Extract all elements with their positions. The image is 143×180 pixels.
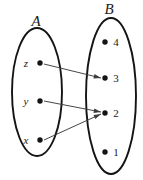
mapping-arrows [44, 64, 101, 140]
element-1: 1 [102, 146, 118, 158]
set-group-b: B [86, 1, 136, 174]
set-outline-a [12, 28, 62, 156]
diagram-canvas: A B [0, 0, 143, 180]
arrow-line-z-3 [44, 64, 101, 78]
element-label-3: 3 [113, 72, 119, 84]
mapping-arrow-x-to-2 [44, 114, 101, 140]
set-group-a: A [12, 13, 62, 156]
arrowhead-x-2 [93, 114, 101, 119]
set-a-elements: z y x [23, 57, 43, 146]
arrow-line-y-2 [44, 101, 101, 112]
element-dot-y [37, 98, 42, 103]
element-label-y: y [23, 95, 29, 107]
element-dot-x [37, 137, 42, 142]
element-3: 3 [102, 72, 119, 84]
element-x: x [23, 134, 43, 146]
arrowhead-z-3 [93, 74, 101, 78]
element-y: y [23, 95, 43, 107]
element-2: 2 [102, 107, 118, 119]
element-dot-3 [102, 75, 107, 80]
set-label-b: B [104, 1, 113, 17]
set-label-a: A [30, 13, 41, 29]
element-label-z: z [23, 57, 29, 69]
set-b-elements: 4 3 2 1 [102, 36, 119, 158]
element-label-2: 2 [113, 107, 119, 119]
element-label-1: 1 [113, 146, 119, 158]
element-label-4: 4 [113, 36, 119, 48]
element-z: z [23, 57, 43, 69]
element-4: 4 [102, 36, 119, 48]
set-mapping-diagram: A B [0, 0, 143, 180]
arrow-line-x-2 [44, 114, 101, 140]
mapping-arrow-z-to-3 [44, 64, 101, 79]
element-dot-2 [102, 110, 107, 115]
set-outline-b [86, 18, 136, 174]
element-label-x: x [23, 134, 29, 146]
element-dot-z [37, 60, 42, 65]
mapping-arrow-y-to-2 [44, 101, 101, 113]
element-dot-4 [102, 39, 107, 44]
element-dot-1 [102, 149, 107, 154]
